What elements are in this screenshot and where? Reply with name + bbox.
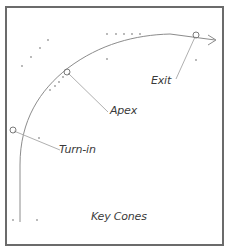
cone-dot (47, 39, 49, 41)
cone-dot (21, 65, 23, 67)
exit-leader-line (176, 37, 195, 79)
key-cones-label: Key Cones (91, 210, 147, 223)
cone-dot (54, 85, 56, 87)
cone-dot (106, 33, 108, 35)
turn-in-marker-icon (10, 127, 16, 133)
cone-dot (115, 33, 117, 35)
racing-line-diagram: Turn-in Apex Exit Key Cones (0, 0, 229, 248)
turn-in-label: Turn-in (59, 143, 96, 156)
cone-dot (36, 219, 38, 221)
cone-dot (12, 219, 14, 221)
cone-markers (12, 33, 197, 221)
cone-dot (123, 33, 125, 35)
racing-line-path (20, 34, 215, 222)
cone-dot (106, 58, 108, 60)
cone-dot (39, 47, 41, 49)
apex-leader-line (68, 73, 108, 112)
cone-dot (38, 137, 40, 139)
cone-dot (139, 33, 141, 35)
cone-dot (49, 89, 51, 91)
cone-dot (58, 81, 60, 83)
apex-marker-icon (64, 69, 70, 75)
cone-dot (62, 76, 64, 78)
cone-dot (131, 33, 133, 35)
cone-dot (30, 56, 32, 58)
exit-label: Exit (151, 74, 171, 87)
cone-dot (195, 59, 197, 61)
apex-label: Apex (110, 104, 137, 117)
